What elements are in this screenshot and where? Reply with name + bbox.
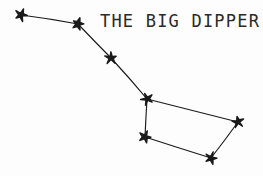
star-glyph [141, 93, 152, 105]
star-glyph [16, 9, 27, 22]
star-glyph [232, 116, 244, 127]
star-glyph [206, 152, 217, 164]
star-marker [16, 9, 27, 22]
star-marker [141, 93, 152, 105]
constellation-line [147, 99, 238, 122]
constellation-star-group [16, 9, 244, 164]
constellation-line [111, 58, 147, 99]
constellation-line [21, 15, 78, 24]
constellation-line [211, 122, 238, 158]
constellation-canvas: THE BIG DIPPER [0, 0, 263, 176]
constellation-diagram: THE BIG DIPPER [0, 0, 263, 176]
constellation-line-group [21, 15, 238, 158]
star-marker [140, 131, 151, 143]
constellation-line [145, 137, 211, 158]
star-glyph [140, 131, 151, 143]
diagram-title: THE BIG DIPPER [100, 11, 260, 31]
star-marker [232, 116, 244, 127]
star-marker [206, 152, 217, 164]
